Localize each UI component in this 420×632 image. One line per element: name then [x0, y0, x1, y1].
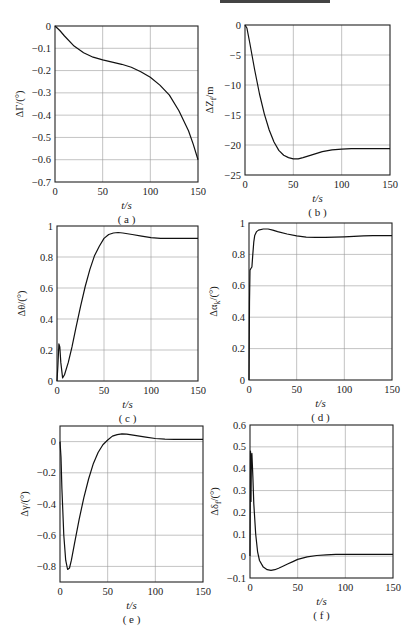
y-tick-label: 0.3 [233, 485, 246, 496]
y-tick-label: 0 [240, 375, 245, 386]
x-axis-label: t/s [122, 398, 132, 410]
x-tick-label: 100 [334, 179, 350, 190]
y-tick-label: 1 [48, 221, 53, 232]
x-tick-label: 100 [336, 384, 352, 395]
y-axis-label: Δαk/(°) [208, 286, 222, 317]
y-tick-label: 0.4 [233, 463, 247, 474]
subplot-e: 0501001500−0.2−0.4−0.6−0.8t/s( e )Δγ/(°) [60, 426, 203, 582]
x-tick-label: 50 [288, 179, 299, 190]
y-tick-label: −0.1 [32, 43, 51, 54]
y-tick-label: 0.6 [232, 280, 245, 291]
y-tick-label: 0.2 [40, 345, 53, 356]
y-tick-label: −0.6 [32, 154, 51, 165]
y-axis-label: ΔZf/m [204, 87, 218, 114]
x-tick-label: 0 [57, 586, 62, 597]
x-tick-label: 0 [54, 385, 59, 396]
x-tick-label: 150 [385, 582, 401, 593]
x-tick-label: 150 [382, 179, 398, 190]
y-tick-label: 1 [240, 218, 245, 229]
y-tick-label: 0.6 [233, 420, 246, 431]
x-tick-label: 150 [190, 186, 206, 197]
y-tick-label: 0.1 [233, 529, 246, 540]
subplot-caption: ( c ) [119, 412, 137, 425]
y-tick-label: −0.8 [37, 561, 56, 572]
top-scan-bar [220, 0, 330, 3]
y-tick-label: −0.1 [227, 573, 246, 584]
x-axis-label: t/s [316, 595, 326, 607]
y-tick-label: −0.2 [37, 467, 56, 478]
y-tick-label: 0.6 [40, 283, 53, 294]
subplot-caption: ( f ) [313, 609, 330, 622]
y-tick-label: 0 [48, 376, 53, 387]
subplot-d: 05010015000.20.40.60.81t/s( d )Δαk/(°) [249, 223, 392, 380]
y-tick-label: −0.4 [32, 110, 52, 121]
subplot-caption: ( d ) [311, 411, 330, 424]
plot-area-a: 0501001500−0.1−0.2−0.3−0.4−0.5−0.6−0.7t/… [55, 26, 198, 182]
y-tick-label: −0.5 [32, 132, 51, 143]
y-tick-label: −20 [225, 140, 241, 151]
x-tick-label: 100 [142, 186, 158, 197]
y-tick-label: 0.8 [232, 249, 245, 260]
x-tick-label: 0 [246, 384, 251, 395]
x-axis-label: t/s [312, 192, 322, 204]
y-tick-label: 0 [51, 436, 56, 447]
subplot-f: 0501001500.60.50.40.30.20.10−0.1t/s( f )… [250, 425, 393, 578]
x-tick-label: 100 [147, 586, 163, 597]
y-tick-label: 0 [241, 551, 246, 562]
x-tick-label: 0 [52, 186, 57, 197]
y-tick-label: −5 [230, 50, 241, 61]
y-tick-label: 0 [236, 20, 241, 31]
x-tick-label: 0 [242, 179, 247, 190]
subplot-caption: ( e ) [123, 613, 141, 626]
x-tick-label: 100 [337, 582, 353, 593]
y-tick-label: 0.2 [233, 507, 246, 518]
data-curve-b [245, 25, 390, 159]
data-curve-e [60, 434, 203, 570]
plot-area-b: 0501001500−5−10−15−20−25t/s( b )ΔZf/m [245, 25, 390, 175]
subplot-caption: ( b ) [308, 206, 327, 219]
x-tick-label: 50 [97, 186, 108, 197]
y-axis-label: Δθ/(°) [16, 290, 28, 316]
subplot-a: 0501001500−0.1−0.2−0.3−0.4−0.5−0.6−0.7t/… [55, 26, 198, 182]
x-axis-label: t/s [121, 199, 131, 211]
x-tick-label: 50 [292, 582, 303, 593]
subplot-b: 0501001500−5−10−15−20−25t/s( b )ΔZf/m [245, 25, 390, 175]
y-tick-label: −0.2 [32, 65, 51, 76]
y-tick-label: 0.8 [40, 252, 53, 263]
plot-area-c: 05010015000.20.40.60.81t/s( c )Δθ/(°) [57, 226, 198, 381]
y-tick-label: 0.2 [232, 343, 245, 354]
data-curve-c [57, 233, 198, 382]
x-tick-label: 0 [247, 582, 252, 593]
x-tick-label: 50 [99, 385, 110, 396]
y-tick-label: −0.4 [37, 499, 57, 510]
y-tick-label: 0 [46, 21, 51, 32]
x-tick-label: 150 [195, 586, 211, 597]
y-axis-label: Δγ/(°) [19, 491, 31, 517]
y-tick-label: −25 [225, 170, 241, 181]
x-tick-label: 50 [102, 586, 113, 597]
y-tick-label: −15 [225, 110, 241, 121]
y-axis-label: ΔΓ/(°) [14, 90, 26, 117]
data-curve-f [250, 451, 393, 570]
y-tick-label: −10 [225, 80, 241, 91]
y-tick-label: −0.3 [32, 87, 51, 98]
y-axis-label: Δδf/(°) [209, 487, 223, 516]
subplot-c: 05010015000.20.40.60.81t/s( c )Δθ/(°) [57, 226, 198, 381]
plot-area-e: 0501001500−0.2−0.4−0.6−0.8t/s( e )Δγ/(°) [60, 426, 203, 582]
subplot-caption: ( a ) [118, 213, 136, 226]
y-tick-label: −0.7 [32, 177, 51, 188]
y-tick-label: 0.4 [40, 314, 54, 325]
x-axis-label: t/s [315, 397, 325, 409]
x-tick-label: 150 [190, 385, 206, 396]
x-tick-label: 100 [143, 385, 159, 396]
data-curve-d [249, 229, 392, 380]
y-tick-label: 0.4 [232, 312, 246, 323]
x-tick-label: 150 [384, 384, 400, 395]
plot-area-d: 05010015000.20.40.60.81t/s( d )Δαk/(°) [249, 223, 392, 380]
plot-area-f: 0501001500.60.50.40.30.20.10−0.1t/s( f )… [250, 425, 393, 578]
y-tick-label: −0.6 [37, 530, 56, 541]
x-axis-label: t/s [126, 599, 136, 611]
x-tick-label: 50 [291, 384, 302, 395]
y-tick-label: 0.5 [233, 441, 246, 452]
